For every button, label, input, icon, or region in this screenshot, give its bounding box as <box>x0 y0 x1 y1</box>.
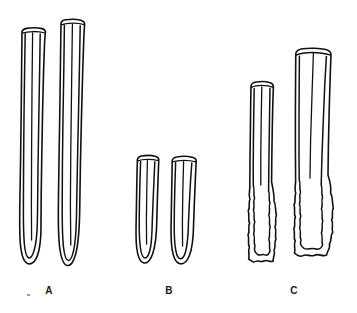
group-label-a: A <box>38 285 60 296</box>
specimen-group-c <box>248 48 333 262</box>
specimen-group-a <box>20 19 85 265</box>
specimen-drawing <box>0 0 357 313</box>
group-label-b: B <box>158 285 180 296</box>
specimen-group-b <box>136 156 196 264</box>
figure-container: A B C <box>0 0 357 313</box>
label-tick-mark <box>27 294 30 296</box>
group-label-c: C <box>283 285 305 296</box>
specimen-c1-outline <box>248 82 276 262</box>
